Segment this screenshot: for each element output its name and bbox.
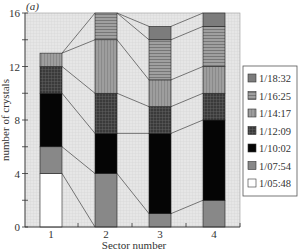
bar-segment — [203, 26, 225, 66]
bar-segment — [203, 67, 225, 94]
bar-segment — [203, 120, 225, 200]
legend-label: 1/05:48 — [259, 178, 291, 189]
bar-segment — [40, 53, 62, 66]
bar-segment — [95, 40, 117, 94]
legend: 1/18:321/16:251/14:171/12:091/10:021/07:… — [243, 66, 297, 196]
legend-swatch — [248, 127, 256, 135]
bar-segment — [95, 133, 117, 173]
bar-segment — [149, 80, 171, 107]
bar-segment — [95, 93, 117, 133]
bar-segment — [203, 93, 225, 120]
legend-label: 1/18:32 — [259, 73, 291, 84]
x-axis-label: Sector number — [102, 239, 167, 251]
bar-segment — [149, 26, 171, 39]
stacked-bar-chart: 0481216 1234 (a) number of crystals Sect… — [0, 0, 299, 251]
bar-segment — [149, 133, 171, 213]
panel-label: (a) — [26, 0, 39, 13]
bar-segment — [40, 67, 62, 94]
legend-label: 1/12:09 — [259, 126, 291, 137]
y-tick-label: 16 — [9, 7, 21, 19]
y-tick-label: 8 — [15, 114, 21, 126]
legend-label: 1/14:17 — [259, 108, 291, 119]
y-tick-label: 0 — [15, 221, 21, 233]
bar-segment — [40, 174, 62, 228]
legend-label: 1/10:02 — [259, 143, 291, 154]
legend-swatch — [248, 109, 256, 117]
bar-segment — [149, 40, 171, 80]
bar-segment — [95, 13, 117, 40]
legend-label: 1/16:25 — [259, 91, 291, 102]
legend-swatch — [248, 74, 256, 82]
y-tick-label: 4 — [15, 168, 21, 180]
y-tick-label: 12 — [9, 61, 20, 73]
bar-segment — [203, 13, 225, 26]
bar-segment — [149, 214, 171, 227]
bar-segment — [149, 107, 171, 134]
x-tick-label: 1 — [48, 228, 54, 240]
legend-swatch — [248, 144, 256, 152]
bar-segment — [40, 93, 62, 147]
bar-segment — [203, 200, 225, 227]
x-tick-label: 4 — [211, 228, 217, 240]
legend-swatch — [248, 179, 256, 187]
bar-segment — [40, 147, 62, 174]
bar-segment — [95, 174, 117, 228]
legend-swatch — [248, 162, 256, 170]
y-axis-label: number of crystals — [0, 79, 11, 161]
legend-swatch — [248, 92, 256, 100]
legend-label: 1/07:54 — [259, 161, 292, 172]
